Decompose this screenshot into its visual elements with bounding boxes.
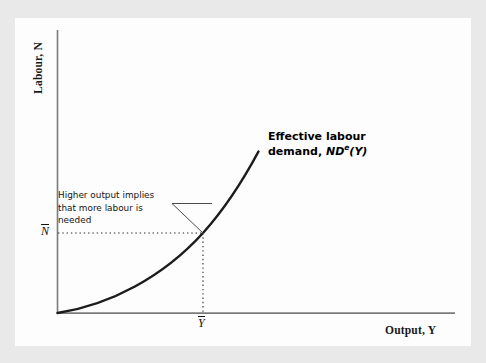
curve-label-prefix: demand, [268,145,326,158]
annotation-line-1: Higher output implies [58,189,174,202]
annotation-line-2: that more labour is needed [58,202,174,227]
curve-label: Effective labour demand, NDe(Y) [268,130,418,159]
x-axis-title: Output, Y [385,324,436,336]
curve-label-symbol: ND [326,145,344,158]
curve-label-suffix: (Y) [349,145,367,158]
effective-labour-demand-curve [58,152,259,314]
plot-area [0,0,486,363]
y-axis-tick-n-bar: N [41,224,49,239]
figure-container: Labour, N Output, Y N Y Higher output im… [0,0,486,363]
x-axis-tick-y-bar: Y [198,316,205,331]
annotation-leader-diagonal [172,204,204,235]
annotation-text: Higher output implies that more labour i… [58,189,174,227]
curve-label-line-2: demand, NDe(Y) [268,145,418,160]
y-tick-symbol: N [41,224,49,238]
y-axis-title: Labour, N [32,26,44,110]
curve-label-line-1: Effective labour [268,130,418,145]
x-tick-symbol: Y [198,316,205,330]
